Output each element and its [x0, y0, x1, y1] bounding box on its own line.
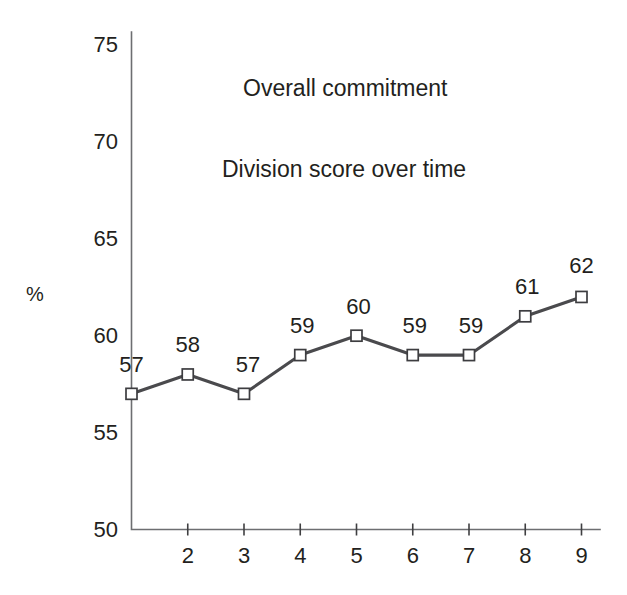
data-point-marker	[576, 291, 587, 302]
y-tick-label: 50	[62, 517, 118, 543]
data-point-marker	[182, 369, 193, 380]
chart-title-primary: Overall commitment	[243, 75, 447, 102]
data-point-label: 58	[176, 332, 200, 358]
y-axis-title: %	[26, 283, 44, 306]
x-tick-label: 4	[294, 543, 306, 569]
data-point-marker	[126, 388, 137, 399]
data-point-label: 59	[459, 313, 483, 339]
data-point-marker	[520, 311, 531, 322]
x-tick-label: 2	[182, 543, 194, 569]
chart-title-secondary: Division score over time	[222, 156, 466, 183]
data-point-label: 59	[290, 313, 314, 339]
y-tick-label: 55	[62, 420, 118, 446]
data-point-marker	[464, 350, 475, 361]
y-tick-label: 60	[62, 323, 118, 349]
line-chart: % Overall commitment Division score over…	[0, 0, 627, 595]
data-point-marker	[239, 388, 250, 399]
data-point-label: 61	[515, 274, 539, 300]
x-tick-label: 9	[575, 543, 587, 569]
data-point-marker	[407, 350, 418, 361]
data-point-label: 59	[403, 313, 427, 339]
data-point-label: 62	[569, 253, 593, 279]
y-tick-label: 75	[62, 32, 118, 58]
y-tick-label: 65	[62, 226, 118, 252]
data-point-marker	[351, 330, 362, 341]
data-point-marker	[295, 350, 306, 361]
y-tick-label: 70	[62, 129, 118, 155]
x-tick-label: 8	[519, 543, 531, 569]
x-tick-label: 6	[407, 543, 419, 569]
data-point-label: 60	[346, 294, 370, 320]
x-tick-label: 5	[350, 543, 362, 569]
x-tick-label: 3	[238, 543, 250, 569]
x-tick-label: 7	[463, 543, 475, 569]
data-point-label: 57	[236, 352, 260, 378]
data-point-label: 57	[119, 352, 143, 378]
